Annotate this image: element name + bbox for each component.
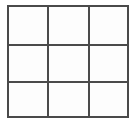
grid-cell-r2c2[interactable]: [49, 46, 88, 81]
grid-cell-r1c1[interactable]: [9, 7, 47, 44]
grid-cell-r1c3[interactable]: [90, 7, 127, 44]
grid-cell-r2c1[interactable]: [9, 46, 47, 81]
grid-border-right: [127, 5, 129, 118]
grid-cell-r3c2[interactable]: [49, 83, 88, 116]
grid-border-bottom: [7, 116, 129, 118]
grid-border-top: [7, 5, 129, 7]
diagram-canvas: [0, 0, 139, 125]
grid-cell-r1c2[interactable]: [49, 7, 88, 44]
grid-border-left: [7, 5, 9, 118]
grid-cell-r2c3[interactable]: [90, 46, 127, 81]
grid-divider-horizontal-1: [7, 44, 129, 46]
grid-divider-horizontal-2: [7, 81, 129, 83]
grid-cell-r3c1[interactable]: [9, 83, 47, 116]
grid-cell-r3c3[interactable]: [90, 83, 127, 116]
grid-divider-vertical-1: [47, 5, 49, 118]
grid-divider-vertical-2: [88, 5, 90, 118]
